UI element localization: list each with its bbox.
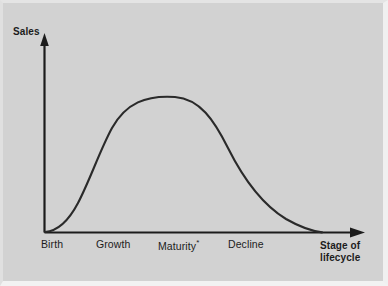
x-axis-title-line1: Stage of bbox=[320, 240, 382, 252]
y-axis-arrowhead bbox=[40, 33, 49, 46]
x-axis-tick-label-maturity: Maturity* bbox=[158, 238, 199, 252]
lifecycle-sales-chart: Sales Birth Growth Maturity* Decline Sta… bbox=[0, 0, 388, 286]
x-axis-arrowhead bbox=[350, 228, 365, 238]
maturity-label-text: Maturity bbox=[158, 240, 196, 252]
x-axis-tick-label-growth: Growth bbox=[96, 238, 130, 250]
x-axis-title-line2: lifecycle bbox=[320, 252, 382, 264]
x-axis-title: Stage of lifecycle bbox=[320, 240, 382, 264]
maturity-footnote-asterisk: * bbox=[196, 238, 199, 247]
x-axis-tick-label-birth: Birth bbox=[41, 238, 63, 250]
y-axis-title: Sales bbox=[13, 26, 40, 37]
x-axis-tick-label-decline: Decline bbox=[228, 238, 264, 250]
sales-curve bbox=[45, 97, 322, 233]
